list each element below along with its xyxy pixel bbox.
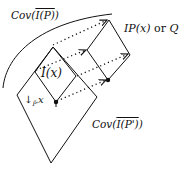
label-cov-ip-prime-prefix: Cov( [92,118,116,130]
label-cov-ip-prefix: Cov( [11,9,35,21]
label-cov-ip: Cov(I(P)) [11,10,59,21]
label-down-x: x [38,94,44,105]
label-or: or [151,22,170,35]
label-cov-ip-prime: Cov(I(P')) [92,119,143,130]
label-cov-ip-prime-suffix: ) [139,118,143,130]
label-cov-ip-suffix: ) [55,9,59,21]
dotted-arrow-top [53,20,107,45]
label-cov-ip-inner: I(P) [35,9,54,21]
label-ix: I(x) [41,67,62,79]
label-down-p-prime-x: ↓P̃'x [24,95,44,107]
label-q: Q [169,22,178,35]
label-ipx: IP(x) [124,22,151,35]
label-ipx-or-q: IP(x) or Q [124,23,178,34]
label-cov-ip-prime-inner: I(P') [116,118,138,130]
point-ipx-bottom [106,78,110,82]
